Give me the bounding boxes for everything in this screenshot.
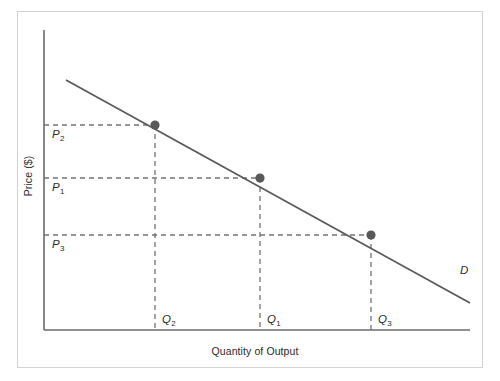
x-axis-title: Quantity of Output [140,345,370,357]
plot-area [0,0,500,381]
demand-curve-label: D [460,264,468,276]
price-label-p2: P2 [52,128,64,140]
quantity-label-q3: Q3 [378,313,391,325]
price-label-p3: P3 [52,238,64,250]
demand-curve-figure: P2 P1 P3 Q2 Q1 Q3 D Quantity of Output P… [0,0,500,381]
quantity-label-q2: Q2 [162,313,175,325]
price-label-p1: P1 [52,181,64,193]
data-point-3 [366,230,375,239]
demand-curve [66,80,470,303]
y-axis-title: Price ($) [22,148,34,204]
data-point-1 [255,173,264,182]
quantity-label-q1: Q1 [267,313,280,325]
data-point-2 [150,120,159,129]
